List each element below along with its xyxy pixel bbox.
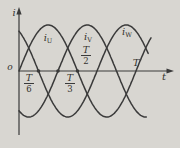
curve-label-iW-sub: W — [125, 31, 132, 39]
i-axis-arrowhead — [16, 7, 21, 15]
tick-label-T-over-3: T 3 — [65, 74, 75, 93]
three-phase-current-waveform-figure: i t o iU iV iW T 6 T 3 T 2 T — [0, 0, 180, 148]
axis-dot-T-6 — [37, 69, 41, 73]
tick-label-T: T — [133, 58, 140, 68]
curve-label-iV-sub: V — [87, 36, 92, 44]
axis-dot-T-2 — [76, 69, 80, 73]
tick-T3-numerator: T — [67, 74, 73, 82]
axis-dot-T-3 — [56, 69, 60, 73]
tick-T3-denominator: 3 — [67, 85, 72, 93]
curve-label-iV: iV — [84, 27, 92, 44]
tick-T6-denominator: 6 — [26, 85, 31, 93]
curve-label-iW: iW — [122, 22, 132, 39]
tick-T2-numerator: T — [83, 46, 89, 54]
tick-label-T-over-2: T 2 — [81, 46, 91, 65]
origin-label: o — [7, 63, 12, 72]
curve-label-iU: iU — [44, 28, 53, 45]
y-axis-label-i: i — [12, 8, 15, 18]
curve-label-iU-sub: U — [47, 37, 52, 45]
t-axis-arrowhead — [167, 68, 175, 73]
tick-T6-numerator: T — [26, 74, 32, 82]
tick-T2-denominator: 2 — [83, 57, 88, 65]
x-axis-label-t: t — [162, 72, 166, 82]
tick-label-T-over-6: T 6 — [24, 74, 34, 93]
